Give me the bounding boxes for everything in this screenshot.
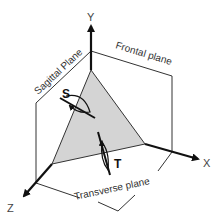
s-rotation-label: S (62, 87, 70, 101)
transverse-plane-label: Transverse plane (73, 175, 151, 202)
x-axis-label: X (203, 157, 211, 169)
y-axis-label: Y (87, 11, 95, 23)
z-axis (24, 164, 52, 196)
shaded-triangle-plane (52, 70, 145, 164)
frontal-plane-label: Frontal plane (114, 39, 173, 67)
t-rotation-label: T (114, 157, 122, 171)
z-axis-label: Z (7, 202, 14, 214)
transverse-plane-outline-lower (98, 195, 135, 211)
sagittal-plane-label: Sagittal Plane (32, 46, 85, 96)
anatomical-planes-diagram: Y X Z Sagittal Plane Frontal plane Trans… (0, 0, 223, 220)
transverse-plane-outline-right (158, 152, 172, 171)
